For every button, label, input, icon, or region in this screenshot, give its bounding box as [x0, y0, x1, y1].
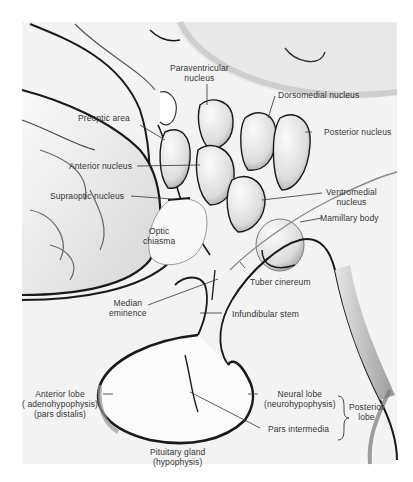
- label-mamillary-body: Mamillary body: [320, 213, 379, 223]
- label-tuber-cinereum: Tuber cinereum: [250, 277, 311, 287]
- label-pars-intermedia: Pars intermedia: [268, 424, 329, 434]
- label-infundibular-stem: Infundibular stem: [232, 309, 299, 319]
- label-text: Optic: [143, 226, 175, 236]
- label-text: Paraventricular: [170, 63, 229, 73]
- label-text: Ventromedial: [326, 187, 377, 197]
- label-posterior-lobe: Posterior lobe: [349, 402, 384, 422]
- label-text: (neurohypophysis): [264, 399, 336, 409]
- label-text: (hypophysis): [150, 457, 205, 467]
- label-neural-lobe: Neural lobe (neurohypophysis): [264, 389, 336, 409]
- label-text: Posterior: [349, 402, 384, 412]
- label-text: eminence: [109, 308, 147, 318]
- label-preoptic-area: Preoptic area: [78, 113, 130, 123]
- label-supraoptic-nucleus: Supraoptic nucleus: [50, 191, 124, 201]
- label-text: (pars distalis): [22, 409, 98, 419]
- label-text: Anterior lobe: [22, 389, 98, 399]
- label-text: Pituitary gland: [150, 447, 205, 457]
- label-pituitary-gland: Pituitary gland (hypophysis): [150, 447, 205, 467]
- label-optic-chiasma: Optic chiasma: [143, 226, 175, 246]
- label-median-eminence: Median eminence: [109, 298, 147, 318]
- label-anterior-lobe: Anterior lobe ( adenohypophysis) (pars d…: [22, 389, 98, 419]
- label-text: Neural lobe: [264, 389, 336, 399]
- label-text: nucleus: [170, 73, 229, 83]
- label-posterior-nucleus: Posterior nucleus: [324, 127, 391, 137]
- label-text: lobe: [349, 412, 384, 422]
- label-anterior-nucleus: Anterior nucleus: [69, 161, 132, 171]
- label-ventromedial-nucleus: Ventromedial nucleus: [326, 187, 377, 207]
- label-text: chiasma: [143, 236, 175, 246]
- label-text: ( adenohypophysis): [22, 399, 98, 409]
- label-dorsomedial-nucleus: Dorsomedial nucleus: [278, 90, 359, 100]
- label-paraventricular-nucleus: Paraventricular nucleus: [170, 63, 229, 83]
- label-text: Median: [109, 298, 147, 308]
- label-text: nucleus: [326, 197, 377, 207]
- hypothalamus-pituitary-diagram: Paraventricular nucleus Dorsomedial nucl…: [0, 0, 413, 482]
